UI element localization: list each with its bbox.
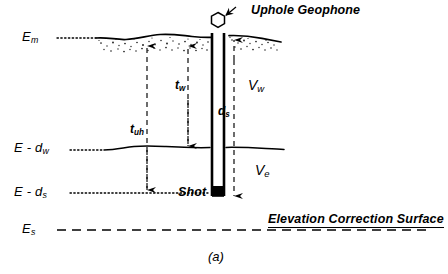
figure-caption: (a) [208, 250, 224, 263]
ground-surface-line [57, 34, 281, 42]
time-label-uphole: tuh [130, 123, 144, 137]
uphole-survey-figure: Em E - dw E - ds Es tuh tw ds Vw Ve Upho… [0, 0, 448, 274]
depth-label-shot: ds [218, 105, 230, 119]
elevation-label-shot-depth: E - ds [14, 185, 47, 200]
elevation-label-weathering-base: E - dw [14, 141, 49, 156]
weathering-base-line [70, 146, 284, 150]
velocity-label-subweathering: Ve [255, 163, 270, 179]
geophone-icon [212, 7, 237, 27]
figure-canvas [0, 0, 448, 274]
uphole-geophone-label: Uphole Geophone [251, 4, 360, 17]
shot-label: Shot [178, 186, 206, 199]
velocity-label-weathering: Vw [248, 78, 264, 94]
shot-charge-icon [213, 186, 224, 196]
elevation-label-datum: Es [22, 222, 36, 237]
elevation-correction-surface-label: Elevation Correction Surface [268, 213, 444, 228]
elevation-label-surface: Em [22, 30, 38, 45]
time-label-weathering: tw [175, 79, 185, 93]
